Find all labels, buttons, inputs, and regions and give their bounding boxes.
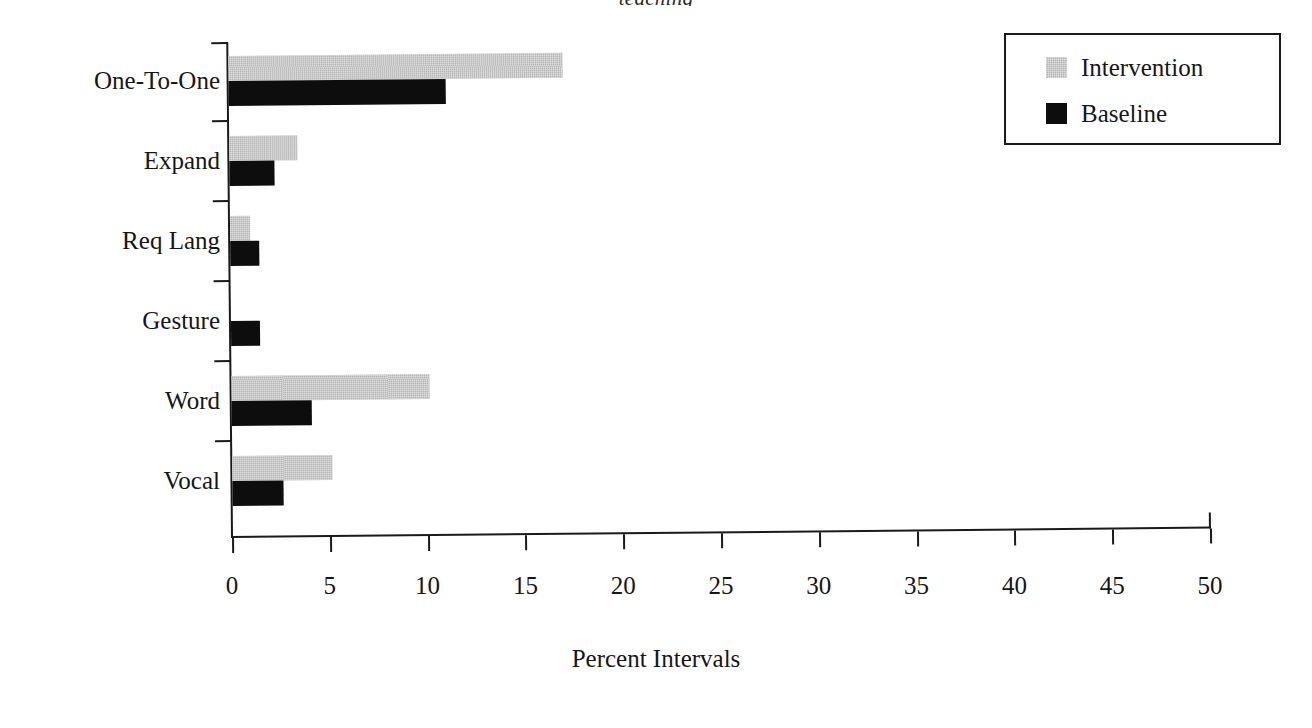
x-axis-tick-label-25: 25 bbox=[691, 572, 751, 600]
y-axis-label-one-to-one: One-To-One bbox=[30, 67, 220, 95]
x-axis-end-cap bbox=[1209, 513, 1211, 529]
y-axis-tick bbox=[212, 120, 228, 122]
x-axis-tick bbox=[525, 535, 527, 550]
legend-label-intervention: Intervention bbox=[1081, 55, 1203, 80]
chart-legend: Intervention Baseline bbox=[1004, 33, 1281, 145]
y-axis-label-vocal: Vocal bbox=[30, 467, 220, 495]
bar-req-lang-intervention bbox=[230, 216, 250, 241]
y-axis-tick bbox=[214, 360, 230, 362]
x-axis-tick bbox=[232, 538, 234, 553]
x-axis-tick bbox=[819, 532, 821, 547]
legend-swatch-baseline bbox=[1046, 103, 1067, 124]
legend-item-baseline: Baseline bbox=[1046, 101, 1167, 126]
x-axis-tick bbox=[1014, 530, 1016, 545]
bar-group-container bbox=[0, 0, 1307, 2]
y-axis-tick bbox=[214, 280, 230, 282]
y-axis-tick bbox=[215, 440, 231, 442]
x-axis-tick-label-50: 50 bbox=[1180, 572, 1240, 600]
x-axis-tick-label-35: 35 bbox=[887, 572, 947, 600]
x-axis-tick-label-10: 10 bbox=[398, 572, 458, 600]
bar-chart: One-To-OneExpandReq LangGestureWordVocal… bbox=[0, 0, 1312, 728]
y-axis-label-req-lang: Req Lang bbox=[30, 227, 220, 255]
bar-vocal-baseline bbox=[232, 481, 283, 506]
bar-one-to-one-baseline bbox=[229, 79, 446, 106]
y-axis-top-cap bbox=[211, 42, 227, 44]
bar-word-baseline bbox=[232, 400, 312, 426]
y-axis-label-gesture: Gesture bbox=[30, 307, 220, 335]
x-axis-ticks bbox=[0, 0, 1307, 2]
y-axis-ticks bbox=[0, 0, 1307, 2]
x-axis-tick bbox=[1112, 530, 1114, 545]
x-axis-tick-label-45: 45 bbox=[1082, 572, 1142, 600]
x-axis-tick-label-0: 0 bbox=[202, 572, 262, 600]
y-axis-tick bbox=[213, 200, 229, 202]
x-axis-tick-label-40: 40 bbox=[984, 572, 1044, 600]
legend-item-intervention: Intervention bbox=[1046, 55, 1203, 80]
x-axis-tick bbox=[428, 536, 430, 551]
bar-one-to-one-intervention bbox=[228, 53, 563, 81]
x-axis-tick-label-5: 5 bbox=[300, 572, 360, 600]
x-axis-tick-label-15: 15 bbox=[495, 572, 555, 600]
x-axis-tick bbox=[917, 531, 919, 546]
x-axis-tick bbox=[623, 534, 625, 549]
bar-expand-intervention bbox=[229, 135, 298, 161]
legend-label-baseline: Baseline bbox=[1081, 101, 1167, 126]
bar-vocal-intervention bbox=[232, 455, 332, 481]
legend-swatch-intervention bbox=[1046, 57, 1067, 78]
x-axis-title: Percent Intervals bbox=[0, 645, 1312, 673]
x-axis-tick bbox=[330, 537, 332, 552]
bar-req-lang-baseline bbox=[230, 241, 260, 266]
x-axis-tick-label-20: 20 bbox=[593, 572, 653, 600]
x-axis-tick bbox=[721, 533, 723, 548]
y-axis-label-word: Word bbox=[30, 387, 220, 415]
x-axis-tick bbox=[1210, 529, 1212, 544]
bar-word-intervention bbox=[231, 374, 429, 401]
x-axis-tick-label-30: 30 bbox=[789, 572, 849, 600]
bar-expand-baseline bbox=[229, 161, 274, 186]
bar-gesture-baseline bbox=[231, 321, 261, 346]
y-axis-label-expand: Expand bbox=[30, 147, 220, 175]
